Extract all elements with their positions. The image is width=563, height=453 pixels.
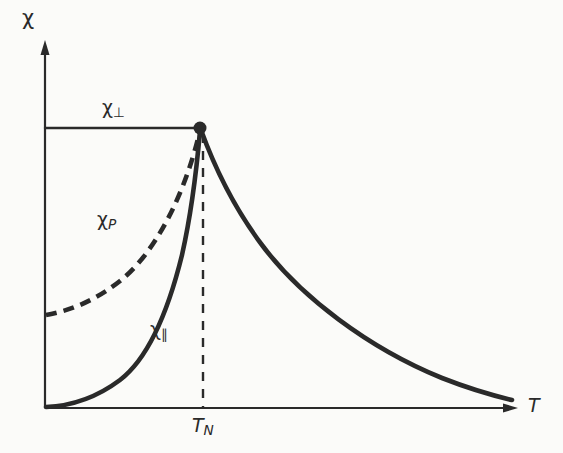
chi-powder-curve — [46, 130, 200, 315]
susceptibility-vs-temperature-chart — [0, 0, 563, 453]
neel-temperature-subscript: N — [204, 422, 214, 438]
y-axis — [41, 40, 50, 408]
x-axis — [45, 404, 518, 413]
x-axis-label: T — [528, 394, 540, 416]
chi-powder-label: χP — [97, 208, 116, 232]
chi-para-curve — [46, 131, 200, 407]
y-axis-label: χ — [22, 6, 34, 30]
chi-powder-subscript: P — [108, 216, 116, 232]
y-axis-arrowhead — [41, 40, 50, 55]
neel-temperature-label: TN — [192, 414, 214, 438]
chi-perp-label: χ⊥ — [102, 96, 125, 120]
chi-para-subscript: ∥ — [161, 326, 168, 342]
curie-weiss-tail-curve — [201, 130, 512, 400]
x-axis-arrowhead — [503, 404, 518, 413]
neel-point-marker — [194, 122, 207, 135]
chi-para-label: χ∥ — [150, 318, 168, 342]
chi-perp-subscript: ⊥ — [113, 104, 125, 120]
